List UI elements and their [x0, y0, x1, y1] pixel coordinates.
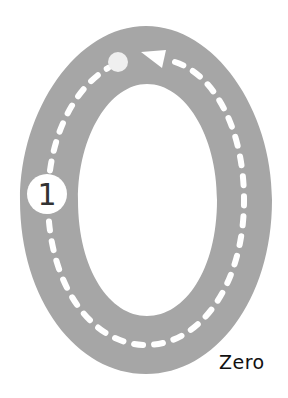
numeral-label: Zero	[219, 351, 265, 373]
numeral-zero-track: 1	[0, 0, 288, 398]
end-dot-icon	[108, 52, 128, 72]
start-marker-number: 1	[37, 177, 56, 212]
